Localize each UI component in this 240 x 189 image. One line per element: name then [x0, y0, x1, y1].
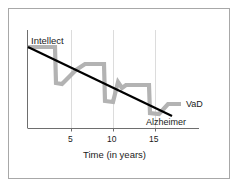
x-tick-label-10: 10: [107, 135, 116, 144]
y-axis-title: Intellect: [31, 36, 64, 46]
series-line-alzheimer: [28, 47, 172, 116]
chart-plot-area: [0, 0, 240, 189]
grid-lines: [72, 30, 156, 128]
x-axis-title: Time (in years): [83, 150, 146, 160]
x-tick-label-15: 15: [149, 135, 158, 144]
series-label-alzheimer: Alzheimer: [146, 118, 186, 127]
series-label-vad: VaD: [186, 100, 203, 109]
x-tick-label-5: 5: [68, 135, 73, 144]
